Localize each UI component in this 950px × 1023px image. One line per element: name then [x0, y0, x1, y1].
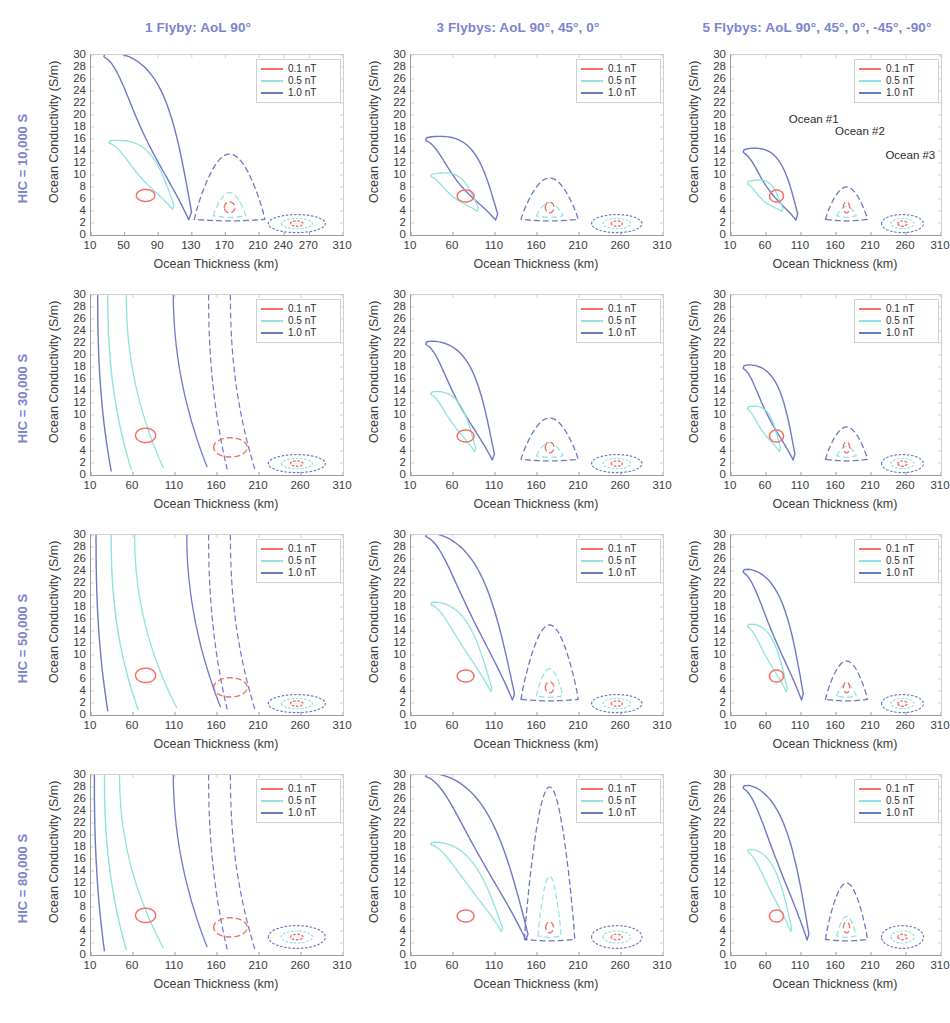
y-tick-label: 12: [700, 876, 726, 888]
x-axis-label: Ocean Thickness (km): [410, 497, 662, 511]
row-label-row-hic-30000: HIC = 30,000 S: [15, 339, 30, 459]
y-tick-label: 16: [60, 132, 86, 144]
y-tick-label: 8: [60, 180, 86, 192]
x-axis-label: Ocean Thickness (km): [90, 257, 342, 271]
legend-swatch-line: [859, 320, 881, 322]
x-tick-label: 260: [895, 239, 914, 251]
legend: 0.1 nT0.5 nT1.0 nT: [854, 539, 939, 583]
contour-line: [230, 775, 254, 949]
y-tick-label: 2: [380, 936, 406, 948]
y-tick-label: 10: [60, 648, 86, 660]
x-tick-label: 110: [485, 239, 503, 251]
legend-entry: 1.0 nT: [261, 807, 335, 819]
x-tick-label: 210: [248, 479, 267, 491]
x-tick-label: 160: [526, 239, 545, 251]
legend-swatch-line: [859, 308, 881, 310]
x-tick-label: 260: [610, 719, 629, 731]
legend-swatch-line: [261, 548, 283, 550]
legend-entry-label: 0.5 nT: [608, 795, 636, 807]
contour-line: [611, 221, 622, 226]
legend: 0.1 nT0.5 nT1.0 nT: [576, 59, 661, 103]
x-tick-label: 210: [860, 239, 879, 251]
y-tick-label: 18: [700, 120, 726, 132]
contour-line: [431, 842, 503, 931]
legend-swatch-line: [581, 92, 603, 94]
contour-line: [770, 670, 784, 682]
legend-entry-label: 1.0 nT: [886, 807, 914, 819]
panel-r1-c0: 0246810121416182022242628301060110160210…: [48, 280, 348, 520]
x-tick-label: 110: [165, 479, 183, 491]
y-tick-label: 14: [60, 144, 86, 156]
legend-entry-label: 1.0 nT: [886, 327, 914, 339]
y-tick-label: 18: [380, 120, 406, 132]
y-tick-label: 4: [380, 204, 406, 216]
y-tick-label: 26: [60, 312, 86, 324]
y-tick-label: 6: [700, 432, 726, 444]
contour-line: [592, 215, 642, 233]
legend-entry-label: 1.0 nT: [288, 327, 316, 339]
y-tick-label: 16: [60, 612, 86, 624]
x-tick-label: 260: [895, 479, 914, 491]
y-tick-label: 8: [700, 180, 726, 192]
x-tick-label: 60: [759, 959, 772, 971]
legend-entry-label: 0.1 nT: [288, 303, 316, 315]
y-tick-label: 8: [380, 180, 406, 192]
y-tick-label: 22: [700, 576, 726, 588]
x-tick-label: 210: [248, 959, 267, 971]
legend-swatch-line: [859, 548, 881, 550]
contour-line: [268, 695, 325, 713]
legend-entry-label: 1.0 nT: [886, 87, 914, 99]
legend-entry-label: 1.0 nT: [288, 87, 316, 99]
legend-entry: 0.1 nT: [859, 543, 933, 555]
x-tick-label: 60: [759, 239, 772, 251]
y-tick-label: 30: [380, 288, 406, 300]
y-tick-label: 30: [380, 528, 406, 540]
legend-entry-label: 0.1 nT: [288, 543, 316, 555]
legend: 0.1 nT0.5 nT1.0 nT: [854, 59, 939, 103]
y-axis-label: Ocean Conductivity (S/m): [367, 563, 381, 683]
legend-entry: 1.0 nT: [261, 327, 335, 339]
y-tick-label: 6: [700, 912, 726, 924]
x-tick-label: 260: [290, 479, 309, 491]
legend-entry: 0.1 nT: [581, 783, 655, 795]
legend-entry: 0.1 nT: [581, 63, 655, 75]
y-tick-label: 20: [60, 108, 86, 120]
y-tick-label: 22: [700, 336, 726, 348]
x-tick-label: 310: [652, 479, 671, 491]
y-tick-label: 10: [700, 168, 726, 180]
x-tick-label: 260: [895, 959, 914, 971]
legend-swatch-line: [261, 320, 283, 322]
legend: 0.1 nT0.5 nT1.0 nT: [854, 779, 939, 823]
panel-r3-c0: 0246810121416182022242628301060110160210…: [48, 760, 348, 1000]
contour-line: [524, 787, 574, 941]
y-tick-label: 26: [700, 792, 726, 804]
y-tick-label: 0: [700, 948, 726, 960]
y-tick-label: 20: [700, 588, 726, 600]
legend-entry: 0.5 nT: [581, 75, 655, 87]
legend-entry-label: 0.5 nT: [288, 75, 316, 87]
y-tick-label: 24: [60, 804, 86, 816]
y-tick-label: 0: [700, 228, 726, 240]
x-tick-label: 270: [299, 239, 318, 251]
contour-line: [136, 668, 156, 682]
x-tick-label: 110: [791, 479, 809, 491]
y-tick-label: 0: [60, 708, 86, 720]
y-tick-label: 28: [60, 300, 86, 312]
y-tick-label: 16: [700, 132, 726, 144]
contour-line: [187, 535, 221, 707]
contour-line: [281, 459, 312, 469]
y-tick-label: 8: [60, 660, 86, 672]
y-tick-label: 20: [700, 828, 726, 840]
contour-line: [281, 931, 312, 943]
y-tick-label: 0: [60, 468, 86, 480]
legend: 0.1 nT0.5 nT1.0 nT: [576, 299, 661, 343]
contour-line: [898, 221, 907, 226]
legend-entry: 0.1 nT: [859, 303, 933, 315]
y-tick-label: 30: [60, 768, 86, 780]
contour-line: [291, 221, 304, 226]
contour-line: [882, 926, 924, 949]
y-tick-label: 12: [60, 396, 86, 408]
contour-line: [837, 446, 856, 457]
x-tick-label: 10: [84, 239, 97, 251]
y-tick-label: 2: [700, 456, 726, 468]
